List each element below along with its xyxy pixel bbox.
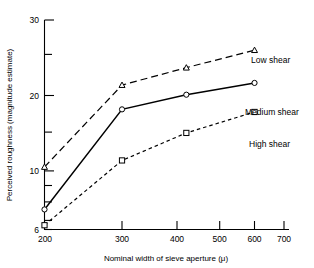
series-medium-shear (42, 80, 257, 212)
series-label-high-shear: High shear (249, 139, 290, 149)
series-label-medium-shear: Medium shear (245, 107, 299, 117)
series-low-shear (42, 47, 258, 169)
x-tick-label-700: 700 (277, 234, 291, 244)
data-point-marker (184, 92, 189, 97)
series-high-shear (42, 109, 257, 227)
data-point-marker (42, 223, 47, 228)
x-axis-title: Nominal width of sieve aperture (μ) (104, 254, 229, 263)
x-axis-ticks (45, 221, 285, 230)
data-point-marker (119, 158, 124, 163)
y-tick-label-20: 20 (30, 91, 40, 101)
data-series-layer (42, 47, 258, 228)
x-tick-label-300: 300 (115, 234, 129, 244)
data-point-marker (184, 130, 189, 135)
series-labels: Low shear Medium shear High shear (245, 55, 299, 149)
y-tick-label-30: 30 (30, 15, 40, 25)
chart-figure: 30 20 10 6 200 300 400 500 600 700 Low s… (0, 0, 314, 268)
line-chart-svg: 30 20 10 6 200 300 400 500 600 700 Low s… (0, 0, 314, 268)
y-tick-label-6: 6 (34, 225, 39, 235)
data-point-marker (119, 107, 124, 112)
data-point-marker (42, 207, 47, 212)
y-tick-label-10: 10 (30, 166, 40, 176)
x-tick-label-400: 400 (170, 234, 184, 244)
y-axis-title: Perceived roughness (magnitude estimate) (5, 48, 14, 201)
x-tick-label-500: 500 (213, 234, 227, 244)
x-tick-labels: 200 300 400 500 600 700 (38, 234, 291, 244)
x-tick-label-600: 600 (247, 234, 261, 244)
data-point-marker (252, 80, 257, 85)
x-tick-label-200: 200 (38, 234, 52, 244)
series-label-low-shear: Low shear (251, 55, 290, 65)
y-tick-labels: 30 20 10 6 (30, 15, 40, 235)
series-line (45, 50, 255, 167)
series-line (45, 83, 255, 209)
data-point-marker (252, 47, 258, 52)
